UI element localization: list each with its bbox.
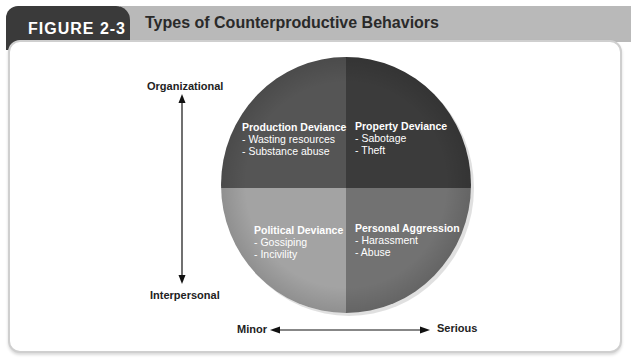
quadrant-label-personal-aggression: Personal Aggression - Harassment - Abuse (355, 222, 460, 258)
axis-label-serious: Serious (437, 322, 477, 334)
quadrant-item: - Gossiping (254, 236, 343, 248)
horizontal-axis-arrow (270, 327, 430, 334)
quadrant-item: - Harassment (355, 234, 460, 246)
quadrant-title: Personal Aggression (355, 222, 460, 234)
quadrant-item: - Substance abuse (242, 145, 346, 157)
quadrant-title: Production Deviance (242, 121, 346, 133)
quadrant-item: - Abuse (355, 246, 460, 258)
quadrant-label-property-deviance: Property Deviance - Sabotage - Theft (355, 120, 447, 156)
axis-label-organizational: Organizational (147, 80, 223, 92)
axis-label-interpersonal: Interpersonal (150, 289, 220, 301)
quadrant-diagram (0, 0, 631, 360)
quadrant-label-production-deviance: Production Deviance - Wasting resources … (242, 121, 346, 157)
quadrant-label-political-deviance: Political Deviance - Gossiping - Incivil… (254, 224, 343, 260)
quadrant-title: Property Deviance (355, 120, 447, 132)
quadrant-item: - Wasting resources (242, 133, 346, 145)
quadrant-item: - Theft (355, 144, 447, 156)
quadrant-title: Political Deviance (254, 224, 343, 236)
axis-label-minor: Minor (237, 323, 267, 335)
quadrant-item: - Sabotage (355, 132, 447, 144)
quadrant-item: - Incivility (254, 248, 343, 260)
vertical-axis-arrow (179, 94, 186, 284)
